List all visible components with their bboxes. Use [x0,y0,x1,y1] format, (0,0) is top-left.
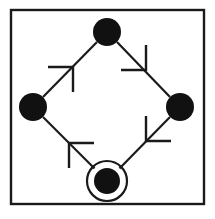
node-bottom[interactable] [87,161,127,201]
diagram-figure [0,0,215,219]
node-right[interactable] [166,93,194,121]
node-top[interactable] [93,18,121,46]
node-right-disc[interactable] [166,93,194,121]
node-left-disc[interactable] [19,93,47,121]
node-bottom-disc[interactable] [94,168,120,194]
node-top-disc[interactable] [93,18,121,46]
directed-graph-canvas [0,0,215,219]
node-left[interactable] [19,93,47,121]
